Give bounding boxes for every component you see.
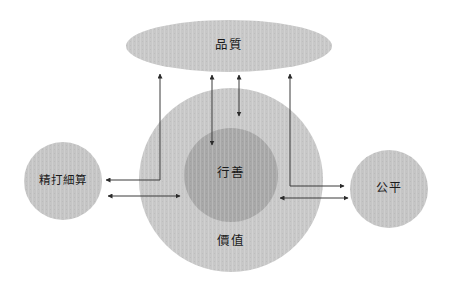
charity-label: 行善 — [217, 165, 245, 180]
node-quality[interactable]: 品質 — [126, 20, 332, 72]
concept-relationship-diagram: 品質 精打細算 公平 行善 價值 — [0, 0, 453, 289]
quality-label: 品質 — [215, 37, 243, 52]
node-fairness[interactable]: 公平 — [350, 150, 428, 228]
value-label: 價值 — [217, 233, 245, 248]
node-frugality[interactable]: 精打細算 — [24, 142, 102, 220]
fairness-label: 公平 — [376, 181, 402, 195]
frugality-label: 精打細算 — [39, 173, 87, 186]
diagram-canvas: 品質 精打細算 公平 行善 價值 — [0, 0, 453, 289]
